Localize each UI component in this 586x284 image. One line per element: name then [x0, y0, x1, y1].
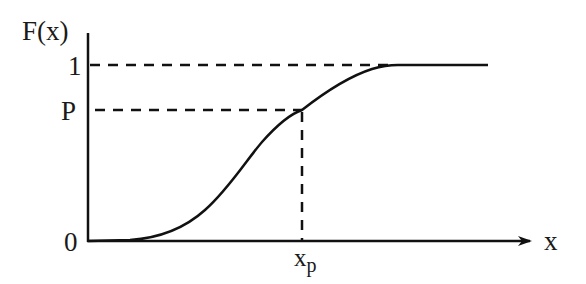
y-tick-one: 1	[68, 51, 82, 81]
x-marker-base: x	[294, 244, 307, 271]
y-tick-zero: 0	[64, 227, 78, 257]
y-tick-p: P	[61, 96, 76, 126]
x-axis-label: x	[544, 226, 558, 256]
y-axis-label: F(x)	[22, 16, 69, 46]
cdf-diagram: F(x) 1 P 0 x xp	[0, 0, 586, 284]
cdf-curve	[88, 65, 488, 241]
x-marker-subscript: p	[307, 254, 317, 277]
x-marker-label: xp	[294, 244, 317, 277]
